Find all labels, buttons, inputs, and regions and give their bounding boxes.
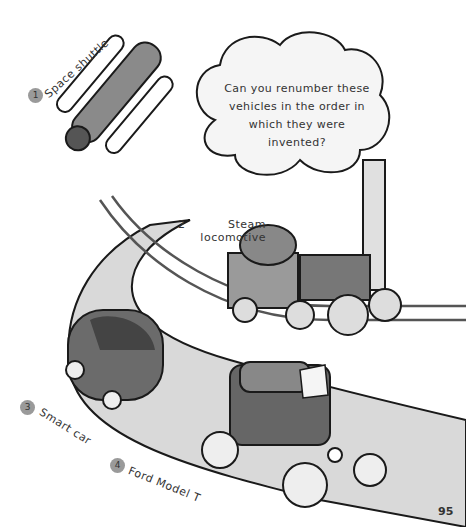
space-shuttle (40, 21, 186, 174)
badge-number-3: 3 (20, 400, 35, 415)
badge-number-1: 1 (28, 88, 43, 103)
label-steam-locomotive: Steam locomotive (172, 218, 266, 244)
page-number: 95 (438, 505, 453, 518)
question-text: Can you renumber these vehicles in the o… (222, 80, 372, 152)
badge-number-4: 4 (110, 458, 125, 473)
